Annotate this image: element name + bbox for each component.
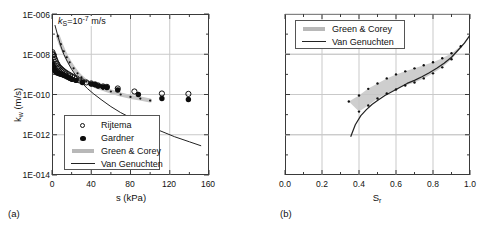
panel-b-legend-row-1: Van Genuchten [296,36,404,48]
panel-b-label: (b) [280,208,292,219]
panel-b-xaxis-title: Sr [360,192,394,203]
panel-b: 0.0 0.2 0.4 0.6 0.8 1.0 Sr Green & Corey… [0,0,500,236]
panel-b-legend-row-0: Green & Corey [296,23,404,35]
panel-b-xtick-2: 0.4 [347,179,371,189]
panel-b-xtick-5: 1.0 [458,179,482,189]
panel-b-legend-label-1: Van Genuchten [332,36,394,48]
panel-b-xtick-3: 0.6 [384,179,408,189]
thin-black-line-icon [302,36,328,48]
panel-b-xtick-4: 0.8 [421,179,445,189]
panel-b-legend: Green & Corey Van Genuchten [295,20,405,49]
figure-root: 1E-006 1E-008 1E-010 1E-012 1E-014 0 40 … [0,0,500,236]
panel-b-canvas [0,0,500,236]
panel-b-xtick-0: 0.0 [273,179,297,189]
panel-b-xaxis-title-sub: r [379,197,381,204]
panel-b-legend-label-0: Green & Corey [332,23,392,35]
thick-gray-line-icon [302,23,328,35]
panel-b-xtick-1: 0.2 [310,179,334,189]
